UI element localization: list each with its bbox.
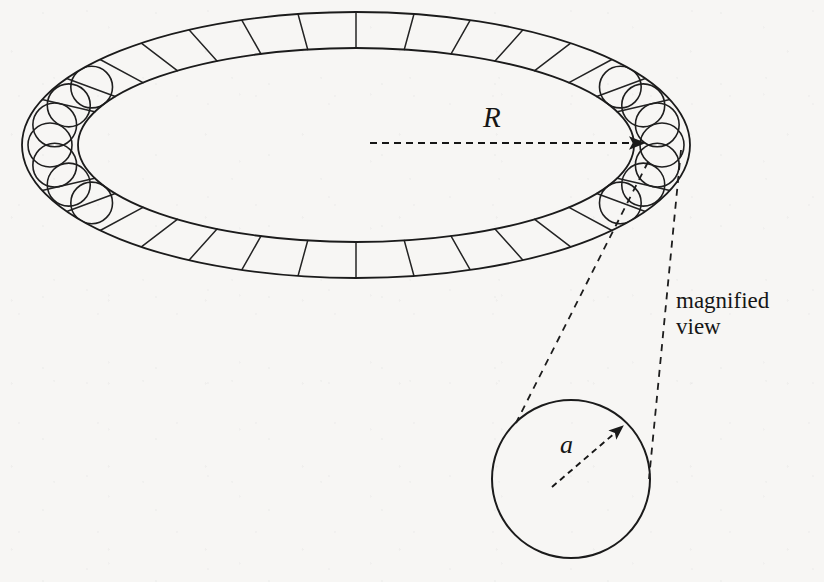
torus-segment-rib	[597, 79, 645, 97]
figure-canvas: R a magnifiedview	[0, 0, 824, 582]
torus-segment-rib	[495, 229, 523, 260]
torus-segment-rib	[242, 20, 261, 54]
torus-segment-rib	[189, 229, 217, 260]
torus-segment-rib	[242, 236, 261, 270]
torus-tube-cross-section	[640, 123, 684, 167]
torus-segment-rib	[42, 178, 95, 190]
torus-segment-rib	[189, 30, 217, 61]
magnified-view-line2: view	[676, 314, 721, 339]
torus-body	[22, 12, 690, 278]
torus-segment-rib	[617, 100, 670, 112]
torus-segment-rib	[569, 207, 612, 230]
torus-segment-rib	[404, 241, 414, 276]
torus-segment-rib	[597, 194, 645, 212]
torus-segment-rib	[495, 30, 523, 61]
torus-outer-edge	[22, 12, 690, 278]
torus-segment-rib	[42, 100, 95, 112]
torus-segment-rib	[404, 14, 414, 49]
minor-radius-label: a	[560, 430, 573, 459]
magnified-tube-circle	[492, 400, 650, 558]
torus-segment-rib	[298, 14, 308, 49]
torus-segment-rib	[535, 43, 571, 71]
torus-tube-cross-section	[28, 123, 72, 167]
torus-segment-rib	[100, 60, 143, 83]
torus-inner-edge	[78, 48, 634, 242]
torus-segment-rib	[67, 79, 115, 97]
torus-segment-rib	[451, 236, 470, 270]
torus-segment-rib	[67, 194, 115, 212]
torus-segment-ribs	[42, 12, 670, 278]
torus-segment-rib	[298, 241, 308, 276]
magnified-view-line1: magnified	[676, 288, 769, 313]
torus-segment-rib	[451, 20, 470, 54]
torus-segment-rib	[569, 60, 612, 83]
torus-segment-rib	[141, 219, 177, 247]
torus-segment-rib	[617, 178, 670, 190]
major-radius-label: R	[483, 101, 501, 133]
torus-segment-rib	[535, 219, 571, 247]
torus-segment-rib	[141, 43, 177, 71]
torus-segment-rib	[100, 207, 143, 230]
magnified-view-callout: magnifiedview	[676, 288, 769, 340]
